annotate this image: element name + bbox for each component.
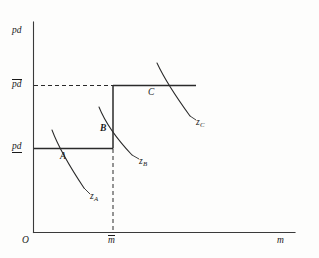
curve-zC <box>157 63 190 116</box>
figure-canvas: pd m O pd pd m A B C zA zB zC <box>0 0 319 258</box>
curve-label-zA-sub: A <box>94 195 98 202</box>
y-tick-pd-lower: pd <box>12 142 22 153</box>
x-axis-label: m <box>277 236 284 246</box>
curve-zB-leader <box>132 155 139 159</box>
curve-label-zB: zB <box>139 157 147 167</box>
point-label-B: B <box>100 124 106 134</box>
plot-svg <box>0 0 319 258</box>
y-tick-pd-lower-text: pd <box>12 142 22 153</box>
origin-label: O <box>22 236 29 246</box>
x-tick-m-bar: m <box>108 235 115 246</box>
curve-zA <box>52 130 84 188</box>
curve-label-zC: zC <box>196 118 204 128</box>
x-tick-m-bar-text: m <box>108 235 115 246</box>
point-label-A: A <box>60 152 66 162</box>
curve-label-zC-sub: C <box>200 121 205 128</box>
y-tick-pd-upper: pd <box>12 79 22 90</box>
curve-label-zA: zA <box>90 192 98 202</box>
point-label-C: C <box>148 88 154 98</box>
y-axis-label: pd <box>12 26 22 36</box>
y-tick-pd-upper-text: pd <box>12 79 22 90</box>
curve-label-zB-sub: B <box>143 160 147 167</box>
